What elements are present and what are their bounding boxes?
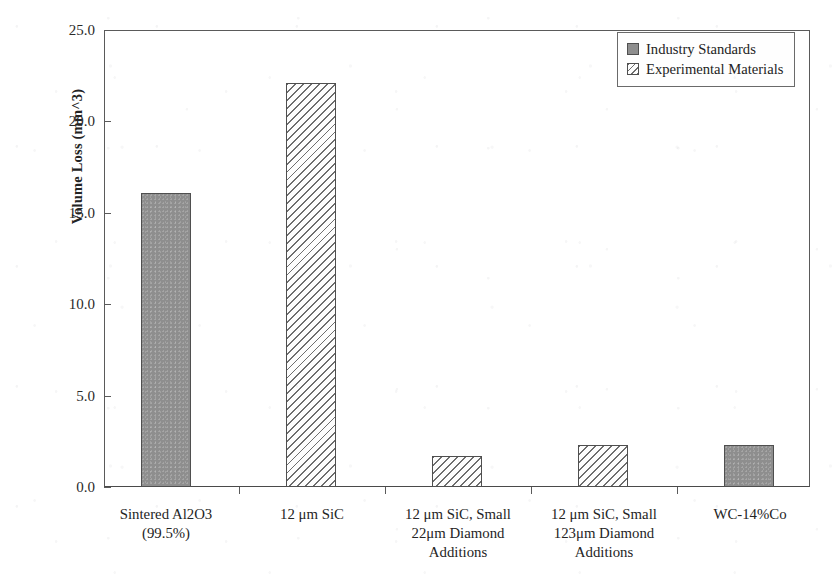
legend-item-experimental-materials: Experimental Materials	[627, 59, 783, 79]
x-label-12um-sic-22um-diamond: 12 μm SiC, Small 22μm Diamond Additions	[385, 505, 531, 562]
x-label-line: 12 μm SiC, Small	[385, 505, 531, 524]
y-tick-mark-0	[104, 487, 111, 488]
x-tick-mark-1	[239, 487, 240, 494]
y-tick-label-25: 25.0	[0, 22, 104, 38]
x-label-line: WC-14%Co	[677, 505, 823, 524]
x-label-line: (99.5%)	[93, 524, 239, 543]
legend-swatch-hatch-icon	[627, 63, 639, 75]
x-label-line: Additions	[531, 543, 677, 562]
bar-12um-sic-22um-diamond	[432, 456, 482, 487]
y-tick-label-0: 0.0	[0, 479, 104, 495]
legend-swatch-solid-icon	[627, 43, 639, 55]
x-tick-mark-3	[531, 487, 532, 494]
legend-label: Industry Standards	[646, 41, 756, 58]
plot-area	[104, 30, 810, 487]
x-tick-mark-2	[385, 487, 386, 494]
x-label-line: 12 μm SiC, Small	[531, 505, 677, 524]
y-tick-label-20: 20.0	[0, 113, 104, 129]
x-label-line: Additions	[385, 543, 531, 562]
y-tick-label-10: 10.0	[0, 296, 104, 312]
x-tick-mark-4	[677, 487, 678, 494]
y-axis-title: Volume Loss (mm^3)	[69, 42, 86, 272]
y-tick-label-15: 15.0	[0, 205, 104, 221]
bar-12um-sic-123um-diamond	[578, 445, 628, 487]
x-label-line: Sintered Al2O3	[93, 505, 239, 524]
bar-sintered-al2o3	[141, 193, 191, 487]
x-label-12um-sic: 12 μm SiC	[239, 505, 385, 524]
legend-label: Experimental Materials	[646, 61, 783, 78]
x-label-wc-14-co: WC-14%Co	[677, 505, 823, 524]
bar-12um-sic	[286, 83, 336, 487]
x-label-line: 123μm Diamond	[531, 524, 677, 543]
x-label-sintered-al2o3: Sintered Al2O3 (99.5%)	[93, 505, 239, 543]
y-tick-label-5: 5.0	[0, 388, 104, 404]
legend: Industry Standards Experimental Material…	[617, 32, 795, 87]
x-label-line: 22μm Diamond	[385, 524, 531, 543]
bar-wc-14-co	[724, 445, 774, 487]
legend-item-industry-standards: Industry Standards	[627, 39, 783, 59]
x-label-line: 12 μm SiC	[239, 505, 385, 524]
bar-chart: Volume Loss (mm^3) 25.0 20.0 15.0 10.0 5…	[0, 0, 840, 585]
x-label-12um-sic-123um-diamond: 12 μm SiC, Small 123μm Diamond Additions	[531, 505, 677, 562]
